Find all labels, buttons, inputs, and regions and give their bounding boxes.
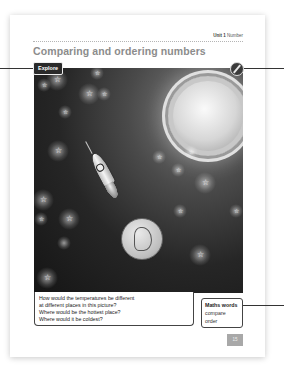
page-number: 15 — [227, 334, 243, 346]
maths-words-box: Maths words compare order — [201, 298, 243, 328]
star-icon: ☆ — [189, 244, 211, 266]
discussion-questions: How would the temperatures be different … — [34, 292, 194, 326]
maths-word: compare — [205, 309, 239, 317]
rocket-illustration — [81, 142, 125, 203]
earth-illustration — [121, 218, 163, 260]
question-line: How would the temperatures be different — [39, 295, 189, 302]
question-line: at different places in this picture? — [39, 302, 189, 309]
right-leader-line-top — [242, 68, 284, 69]
maths-word: order — [205, 317, 239, 325]
explore-tag: Explore — [33, 62, 63, 75]
star-icon: ☆ — [90, 68, 104, 80]
star-icon: ☆ — [173, 204, 187, 218]
unit-label: Unit 1 — [213, 33, 226, 38]
question-line: Where would it be coldest? — [39, 316, 189, 323]
star-icon: ☆ — [34, 212, 48, 226]
star-icon: ☆ — [171, 163, 185, 177]
sun-illustration — [168, 76, 243, 156]
star-icon: ☆ — [34, 189, 54, 211]
star-icon: ☆ — [36, 267, 58, 289]
question-line: Where would be the hottest place? — [39, 309, 189, 316]
pencil-icon — [230, 62, 244, 76]
star-icon: ☆ — [58, 105, 72, 119]
star-icon: ☆ — [229, 204, 243, 218]
star-icon: ☆ — [97, 87, 111, 101]
unit-header: Unit 1 Number — [33, 33, 243, 42]
star-icon — [57, 236, 71, 250]
space-illustration: ☆ ☆ ☆ ☆ ☆ ☆ ☆ ☆ ☆ ☆ ☆ ☆ ☆ ☆ ☆ ☆ ☆ ☆ — [34, 68, 243, 293]
star-icon: ☆ — [58, 208, 80, 230]
star-icon: ☆ — [152, 150, 166, 164]
right-leader-line-bottom — [243, 305, 284, 306]
star-icon: ☆ — [184, 145, 198, 159]
maths-words-heading: Maths words — [205, 301, 239, 309]
star-icon: ☆ — [194, 172, 216, 194]
star-icon: ☆ — [47, 140, 69, 162]
page-title: Comparing and ordering numbers — [33, 45, 206, 57]
unit-topic: Number — [227, 33, 243, 38]
left-leader-line — [0, 68, 34, 69]
